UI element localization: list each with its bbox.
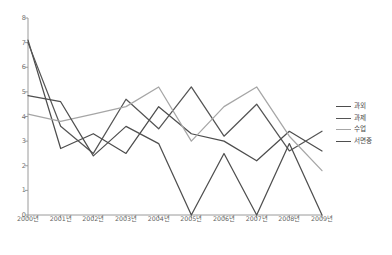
x-tick-label: 2000년 <box>17 216 39 222</box>
legend-item-과제[interactable]: 과제 <box>336 113 392 125</box>
legend-label: 과외 <box>354 103 366 110</box>
data-series-layer <box>28 40 322 215</box>
line-chart-svg <box>0 0 330 235</box>
x-tick-label: 2007년 <box>246 216 268 222</box>
legend-swatch-icon <box>336 141 351 142</box>
legend-swatch-icon <box>336 129 351 130</box>
series-line-수업 <box>28 87 322 171</box>
series-line-과외 <box>28 40 322 161</box>
x-tick-label: 2006년 <box>213 216 235 222</box>
x-tick-label: 2003년 <box>115 216 137 222</box>
legend-label: 서면중 <box>354 138 372 145</box>
x-tick-label: 2009년 <box>311 216 333 222</box>
plot-area <box>0 0 330 235</box>
legend-item-과외[interactable]: 과외 <box>336 101 392 113</box>
chart-figure: 012345678 2000년2001년2002년2003년2004년2005년… <box>0 0 392 255</box>
chart-axes <box>28 18 322 215</box>
x-tick-label: 2008년 <box>278 216 300 222</box>
x-tick-label: 2005년 <box>180 216 202 222</box>
legend-swatch-icon <box>336 106 351 107</box>
x-tick-label: 2002년 <box>82 216 104 222</box>
x-axis-labels: 2000년2001년2002년2003년2004년2005년2006년2007년… <box>28 216 340 236</box>
x-tick-label: 2001년 <box>50 216 72 222</box>
legend-label: 수업 <box>354 126 366 133</box>
legend-swatch-icon <box>336 118 351 119</box>
x-tick-label: 2004년 <box>148 216 170 222</box>
legend-label: 과제 <box>354 115 366 122</box>
legend-item-서면중[interactable]: 서면중 <box>336 136 392 148</box>
legend-item-수업[interactable]: 수업 <box>336 124 392 136</box>
chart-legend: 과외과제수업서면중 <box>336 101 392 147</box>
series-line-과제 <box>28 43 322 154</box>
